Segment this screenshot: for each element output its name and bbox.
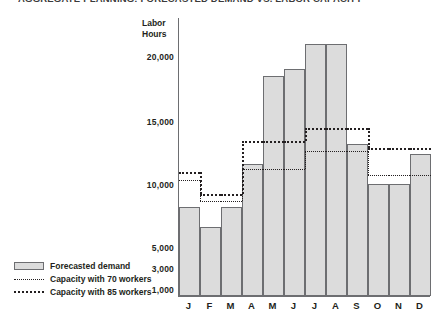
capacity-step-segment: [368, 175, 389, 176]
y-axis-tick-label: 10,000: [130, 180, 174, 190]
legend-swatch-icon: [14, 262, 44, 270]
legend-item: Capacity with 70 workers: [14, 273, 174, 285]
capacity-step-segment: [305, 128, 326, 130]
capacity-step-segment: [242, 141, 263, 143]
capacity-step-segment: [179, 172, 200, 174]
bar-a-3: [242, 164, 263, 296]
x-axis-tick-label: M: [221, 300, 241, 311]
legend-label: Capacity with 85 workers: [50, 287, 152, 297]
capacity-step-segment: [410, 148, 431, 150]
capacity-step-segment: [221, 201, 242, 202]
capacity-step-segment: [326, 151, 347, 152]
plot-area: [178, 18, 430, 297]
capacity-step-riser: [368, 128, 370, 148]
capacity-step-segment: [284, 169, 305, 170]
bar-o-9: [368, 184, 389, 296]
bar-a-7: [326, 44, 347, 296]
legend-item: Capacity with 85 workers: [14, 286, 174, 298]
y-axis-tick-label: 20,000: [130, 52, 174, 62]
capacity-step-riser: [242, 141, 244, 194]
capacity-step-segment: [347, 128, 368, 130]
bar-m-4: [263, 76, 284, 296]
bar-j-0: [179, 207, 200, 296]
capacity-step-segment: [389, 175, 410, 176]
y-axis-tick-label: 15,000: [130, 117, 174, 127]
x-axis-tick-label: O: [368, 300, 388, 311]
x-axis-tick-label: J: [284, 300, 304, 311]
bar-s-8: [347, 144, 368, 296]
legend-label: Forecasted demand: [50, 261, 130, 271]
capacity-step-riser: [305, 151, 306, 169]
bar-n-10: [389, 184, 410, 296]
x-axis-tick-label: S: [347, 300, 367, 311]
bar-m-2: [221, 207, 242, 296]
chart-title: AGGREGATE PLANNING: FORECASTED DEMAND VS…: [18, 0, 418, 5]
capacity-step-segment: [347, 151, 368, 152]
capacity-step-segment: [410, 175, 431, 176]
capacity-step-riser: [305, 128, 307, 141]
legend-item: Forecasted demand: [14, 260, 174, 272]
x-axis-tick-label: J: [305, 300, 325, 311]
capacity-step-segment: [263, 169, 284, 170]
x-axis-tick-label: D: [410, 300, 430, 311]
bar-f-1: [200, 227, 221, 296]
capacity-step-segment: [284, 141, 305, 143]
capacity-step-segment: [221, 194, 242, 196]
x-axis-tick-label: A: [326, 300, 346, 311]
capacity-step-segment: [179, 180, 200, 181]
capacity-step-segment: [389, 148, 410, 150]
capacity-step-segment: [200, 194, 221, 196]
x-axis-tick-label: A: [242, 300, 262, 311]
capacity-step-segment: [242, 169, 263, 170]
x-axis-tick-label: J: [179, 300, 199, 311]
x-axis-tick-label: F: [200, 300, 220, 311]
capacity-step-segment: [305, 151, 326, 152]
legend-label: Capacity with 70 workers: [50, 274, 152, 284]
capacity-step-riser: [200, 172, 202, 194]
chart-legend: Forecasted demandCapacity with 70 worker…: [14, 260, 174, 299]
bar-j-6: [305, 44, 326, 296]
bar-j-5: [284, 69, 305, 296]
capacity-step-segment: [326, 128, 347, 130]
x-axis-tick-label: N: [389, 300, 409, 311]
capacity-step-segment: [263, 141, 284, 143]
x-axis-tick-label: M: [263, 300, 283, 311]
capacity-step-segment: [200, 201, 221, 202]
legend-swatch-icon: [14, 291, 44, 293]
y-axis-tick-label: 5,000: [130, 243, 174, 253]
capacity-step-segment: [368, 148, 389, 150]
legend-swatch-icon: [14, 279, 44, 280]
capacity-step-riser: [368, 151, 369, 175]
